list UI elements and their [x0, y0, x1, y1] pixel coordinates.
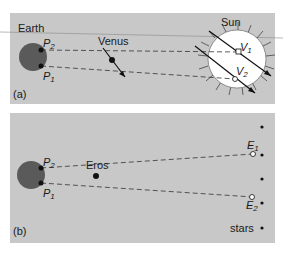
eros-label: Eros [86, 160, 109, 171]
p2-label-b: P2 [43, 157, 55, 170]
p2-label-a: P2 [43, 38, 55, 51]
venus-dot [109, 57, 115, 63]
p1-dot-b [39, 181, 44, 186]
panel-a-tag: (a) [13, 89, 26, 100]
sightline-p2-e2 [41, 154, 253, 168]
background-stars [260, 125, 263, 229]
sightline-p1-v2 [41, 66, 235, 79]
v2-label: V2 [236, 66, 248, 79]
panel-b-tag: (b) [13, 226, 26, 237]
eros-dot [93, 173, 99, 179]
p1-dot-a [39, 64, 44, 69]
earth-label: Earth [18, 23, 44, 34]
v1-label: V1 [240, 42, 252, 55]
venus-label: Venus [98, 36, 129, 47]
sightline-p1-e1 [41, 183, 253, 197]
stars-label: stars [230, 223, 254, 234]
e1-label: E1 [247, 140, 259, 153]
sun-label: Sun [221, 17, 241, 28]
p1-label-a: P1 [43, 71, 55, 84]
p1-label-b: P1 [43, 188, 55, 201]
e2-label: E2 [246, 200, 258, 213]
